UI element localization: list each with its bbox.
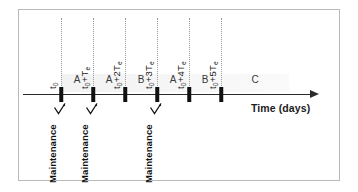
- segment-label: B: [198, 74, 212, 85]
- time-tick-label-tail-sub: e: [212, 61, 219, 65]
- time-tick-label-main: t: [175, 86, 186, 89]
- maintenance-arrow-icon: [85, 102, 97, 115]
- axis-title: Time (days): [251, 102, 310, 114]
- time-tick-label-main: t: [111, 86, 122, 89]
- segment-label: A: [102, 74, 116, 85]
- segment-label: B: [134, 74, 148, 85]
- segment-label: A: [70, 74, 84, 85]
- time-tick-label-sub: 0: [84, 82, 91, 86]
- segment-label: A: [166, 74, 180, 85]
- time-tick-label-sub: 0: [52, 82, 59, 86]
- time-tick-label-tail-sub: e: [180, 61, 187, 65]
- segment-label: C: [248, 74, 262, 85]
- time-tick-label-main: t: [207, 86, 218, 89]
- time-tick-label-main: t: [47, 86, 58, 89]
- time-tick-label-t0: t0: [47, 82, 58, 89]
- time-tick-label-tail-sub: e: [116, 61, 123, 65]
- time-tick-label-tail-sub: e: [148, 61, 155, 65]
- timeline-plot-area: t0 t0+Te t0+2Te t0+3Te t0+4Te t0+5Te A A…: [19, 10, 341, 182]
- gridline-t0-plus-Te: [93, 18, 94, 94]
- time-tick-label-sub: 0: [116, 82, 123, 86]
- axis-arrow-right-icon: [310, 90, 319, 98]
- time-axis-line: [23, 94, 312, 95]
- gridline-t0: [61, 18, 62, 94]
- time-tick-label-sub: 0: [148, 82, 155, 86]
- axis-tick: [91, 87, 95, 102]
- axis-tick: [187, 87, 191, 102]
- maintenance-label: Maintenance: [143, 124, 154, 183]
- axis-tick: [59, 87, 63, 102]
- time-tick-label-main: t: [143, 86, 154, 89]
- time-tick-label-sub: 0: [212, 82, 219, 86]
- figure-frame: t0 t0+Te t0+2Te t0+3Te t0+4Te t0+5Te A A…: [18, 9, 340, 181]
- axis-tick: [123, 87, 127, 102]
- maintenance-label: Maintenance: [79, 124, 90, 183]
- gridline-t0-plus-4Te: [189, 18, 190, 94]
- axis-tick: [219, 87, 223, 102]
- time-tick-label-main: t: [79, 86, 90, 89]
- maintenance-label: Maintenance: [47, 124, 58, 183]
- time-tick-label-tail-sub: e: [84, 66, 91, 70]
- gridline-t0-plus-3Te: [157, 18, 158, 94]
- maintenance-arrow-icon: [149, 102, 161, 115]
- time-tick-label-sub: 0: [180, 82, 187, 86]
- axis-tick: [155, 87, 159, 102]
- maintenance-arrow-icon: [53, 102, 65, 115]
- gridline-t0-plus-2Te: [125, 18, 126, 94]
- gridline-t0-plus-5Te: [221, 18, 222, 94]
